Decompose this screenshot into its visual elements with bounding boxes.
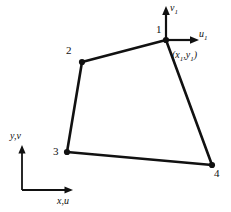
node-label-3: 3 xyxy=(53,146,59,157)
coord-close-paren: ) xyxy=(194,49,197,60)
node-marker-3 xyxy=(64,149,70,155)
local-axis-u1-arrowhead xyxy=(190,36,199,44)
node-label-2: 2 xyxy=(66,45,72,56)
node-1-coordinate-label: (x1,y1) xyxy=(172,50,197,63)
node-label-1: 1 xyxy=(156,24,162,35)
edge-2-3 xyxy=(67,62,82,152)
quadrilateral-element-figure: 1 2 3 4 v1 u1 (x1,y1) y,v x,u xyxy=(0,0,231,212)
local-axis-u1-subscript: 1 xyxy=(204,34,208,42)
figure-canvas xyxy=(0,0,231,212)
global-axis-y-arrowhead xyxy=(18,145,25,154)
edge-3-4 xyxy=(67,152,212,165)
global-axis-label-y: y,v xyxy=(10,131,21,141)
local-axis-v1-arrowhead xyxy=(162,6,170,15)
global-axis-label-x: x,u xyxy=(57,196,69,206)
global-axis-x-arrowhead xyxy=(65,186,74,193)
edge-1-2 xyxy=(82,40,166,62)
local-axis-label-v1: v1 xyxy=(170,3,178,16)
node-label-4: 4 xyxy=(214,168,220,179)
local-axis-label-u1: u1 xyxy=(199,29,208,42)
node-marker-2 xyxy=(79,59,85,65)
local-axis-v1-subscript: 1 xyxy=(174,8,178,16)
